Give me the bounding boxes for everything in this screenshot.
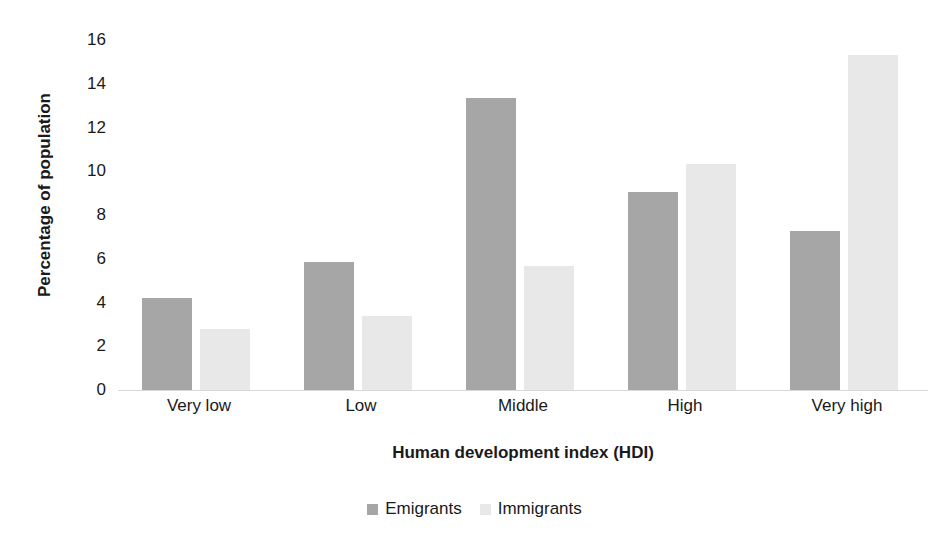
- x-axis-tick-label: Very high: [767, 396, 927, 416]
- y-axis-tick-label: 4: [97, 293, 106, 313]
- x-axis-tick-label: Very low: [119, 396, 279, 416]
- y-axis-title: Percentage of population: [30, 0, 60, 390]
- y-axis-tick-label: 6: [97, 249, 106, 269]
- bar-immigrants-low[interactable]: [362, 316, 412, 390]
- bar-group: [280, 40, 442, 390]
- bar-immigrants-high[interactable]: [686, 164, 736, 390]
- y-axis-tick-label: 2: [97, 336, 106, 356]
- bar-emigrants-middle[interactable]: [466, 98, 516, 390]
- y-axis-tick-label: 12: [87, 118, 106, 138]
- bar-group: [766, 40, 928, 390]
- bar-immigrants-very-low[interactable]: [200, 329, 250, 390]
- y-axis-tick-label: 8: [97, 205, 106, 225]
- legend-item-emigrants[interactable]: Emigrants: [367, 499, 462, 519]
- bar-chart: Percentage of population 0246810121416 V…: [0, 0, 949, 548]
- y-axis-tick-label: 0: [97, 380, 106, 400]
- chart-legend: EmigrantsImmigrants: [0, 499, 949, 519]
- x-axis-title: Human development index (HDI): [118, 443, 928, 463]
- plot-area: [118, 40, 928, 390]
- bar-immigrants-very-high[interactable]: [848, 55, 898, 390]
- bar-emigrants-very-high[interactable]: [790, 231, 840, 390]
- x-axis-tick-label: Middle: [443, 396, 603, 416]
- legend-label: Emigrants: [385, 499, 462, 519]
- x-axis-baseline: [118, 390, 928, 391]
- bar-emigrants-low[interactable]: [304, 262, 354, 390]
- bar-group: [118, 40, 280, 390]
- legend-label: Immigrants: [498, 499, 582, 519]
- bar-immigrants-middle[interactable]: [524, 266, 574, 390]
- bar-group: [604, 40, 766, 390]
- legend-swatch-emigrants: [367, 504, 378, 515]
- x-axis-tick-label: High: [605, 396, 765, 416]
- legend-swatch-immigrants: [480, 504, 491, 515]
- bar-group: [442, 40, 604, 390]
- y-axis-tick-label: 10: [87, 161, 106, 181]
- bar-emigrants-high[interactable]: [628, 192, 678, 390]
- y-axis-tick-labels: 0246810121416: [60, 0, 106, 548]
- x-axis-tick-label: Low: [281, 396, 441, 416]
- legend-item-immigrants[interactable]: Immigrants: [480, 499, 582, 519]
- y-axis-tick-label: 14: [87, 74, 106, 94]
- y-axis-tick-label: 16: [87, 30, 106, 50]
- x-axis-tick-labels: Very lowLowMiddleHighVery high: [118, 396, 928, 426]
- bar-emigrants-very-low[interactable]: [142, 298, 192, 390]
